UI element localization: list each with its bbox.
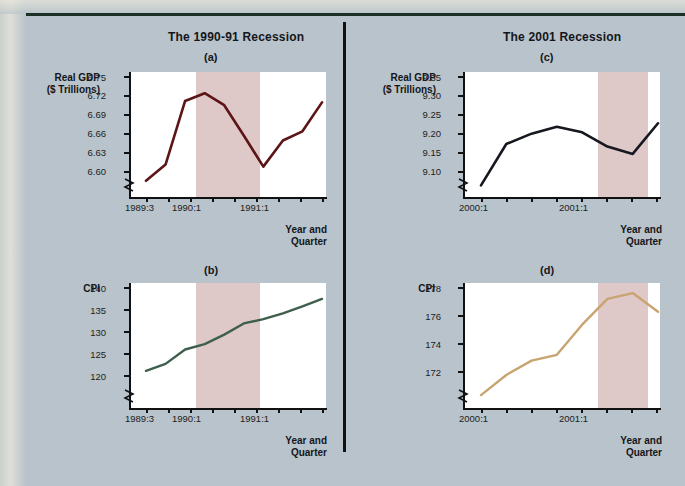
panel-c-xtickmark-2 <box>531 197 533 202</box>
panel-a-ytick-2: 6.69 <box>74 109 106 120</box>
panel-d-xlabel: Year and Quarter <box>590 435 662 459</box>
panel-a-xtickmark-6 <box>278 197 280 202</box>
panel-b-xtickmark-1 <box>168 408 170 413</box>
panel-d-xlabel-line1: Year and <box>620 435 662 446</box>
panel-c-letter: (c) <box>540 51 553 63</box>
panel-d-xtick-label-0: 2000:1 <box>459 413 488 424</box>
panel-c-xtick-label-1: 2001:1 <box>559 202 588 213</box>
panel-c-xlabel-line1: Year and <box>620 224 662 235</box>
panel-c-ytick-4: 9.15 <box>409 147 441 158</box>
panel-d-ytick-1: 176 <box>411 311 441 322</box>
panel-a-xtickmark-7 <box>300 197 302 202</box>
panel-b-xtickmark-6 <box>278 408 280 413</box>
panel-a-xtickmark-4 <box>234 197 236 202</box>
panel-c-ytick-3: 9.20 <box>409 128 441 139</box>
panel-a-xtickmark-8 <box>322 197 324 202</box>
panel-c-xtickmark-5 <box>606 197 608 202</box>
panel-c-xlabel-line2: Quarter <box>626 236 662 247</box>
panel-d-ytick-2: 174 <box>411 339 441 350</box>
panel-d-ytick-0: 178 <box>411 283 441 294</box>
panel-a-ytick-3: 6.66 <box>74 128 106 139</box>
panel-b-xtickmark-8 <box>322 408 324 413</box>
panel-b-ytick-2: 130 <box>76 327 106 338</box>
panel-b-xtickmark-3 <box>212 408 214 413</box>
panel-b-xlabel: Year and Quarter <box>255 435 327 459</box>
panel-b-xlabel-line1: Year and <box>285 435 327 446</box>
figure-canvas: The 1990-91 Recession The 2001 Recession… <box>0 0 685 486</box>
scan-edge-top <box>0 0 685 14</box>
panel-a-xaxis <box>129 197 327 199</box>
top-rule <box>26 13 685 16</box>
panel-b-ytick-3: 125 <box>76 349 106 360</box>
panel-c-ytick-1: 9.30 <box>409 90 441 101</box>
panel-c-xlabel: Year and Quarter <box>590 224 662 248</box>
panel-c-xtickmark-6 <box>631 197 633 202</box>
panel-a-xtick-label-1: 1990:1 <box>172 202 201 213</box>
panel-a-xtick-label-2: 1991:1 <box>240 202 269 213</box>
panel-b-letter: (b) <box>204 264 218 276</box>
panel-c-ytick-2: 9.25 <box>409 109 441 120</box>
panel-a-data-line <box>130 72 326 197</box>
panel-b-data-line <box>130 283 326 408</box>
panel-d-xtickmark-3 <box>556 408 558 413</box>
panel-a-ytick-5: 6.60 <box>74 166 106 177</box>
panel-b-xtickmark-4 <box>234 408 236 413</box>
panel-d-xlabel-line2: Quarter <box>626 447 662 458</box>
panel-b-xlabel-line2: Quarter <box>291 447 327 458</box>
column-divider <box>343 22 346 452</box>
panel-b-ytick-1: 135 <box>76 305 106 316</box>
panel-d-xtick-label-1: 2001:1 <box>559 413 588 424</box>
panel-b-ytick-4: 120 <box>76 371 106 382</box>
panel-d-ytick-3: 172 <box>411 367 441 378</box>
panel-c-ytick-0: 9.35 <box>409 72 441 83</box>
panel-a-xlabel-line2: Quarter <box>291 236 327 247</box>
panel-b-xaxis <box>129 408 327 410</box>
panel-b-ytick-0: 140 <box>76 283 106 294</box>
panel-b-xtick-label-1: 1990:1 <box>172 413 201 424</box>
panel-a-letter: (a) <box>204 51 217 63</box>
left-column-title: The 1990-91 Recession <box>168 30 304 44</box>
panel-a-xlabel-line1: Year and <box>285 224 327 235</box>
panel-c-ytick-5: 9.10 <box>409 166 441 177</box>
panel-a-xtickmark-3 <box>212 197 214 202</box>
panel-d-xtickmark-5 <box>606 408 608 413</box>
panel-a-ytick-0: 6.75 <box>74 72 106 83</box>
panel-d-xtickmark-7 <box>656 408 658 413</box>
right-column-title: The 2001 Recession <box>503 30 621 44</box>
panel-d-data-line <box>464 283 660 408</box>
panel-d-xtickmark-1 <box>506 408 508 413</box>
panel-a-ytick-4: 6.63 <box>74 147 106 158</box>
panel-c-xtickmark-3 <box>556 197 558 202</box>
panel-a-xtick-label-0: 1989:3 <box>125 202 154 213</box>
panel-d-xtickmark-6 <box>631 408 633 413</box>
panel-b-xtick-label-2: 1991:1 <box>240 413 269 424</box>
panel-c-xtickmark-7 <box>656 197 658 202</box>
panel-a-xtickmark-1 <box>168 197 170 202</box>
panel-b-xtickmark-7 <box>300 408 302 413</box>
panel-c-xtick-label-0: 2000:1 <box>459 202 488 213</box>
panel-b-xtick-label-0: 1989:3 <box>125 413 154 424</box>
panel-a-xlabel: Year and Quarter <box>255 224 327 248</box>
panel-d-xtickmark-2 <box>531 408 533 413</box>
panel-d-letter: (d) <box>540 264 554 276</box>
panel-a-ytick-1: 6.72 <box>74 90 106 101</box>
panel-c-xtickmark-1 <box>506 197 508 202</box>
panel-c-data-line <box>464 72 660 197</box>
